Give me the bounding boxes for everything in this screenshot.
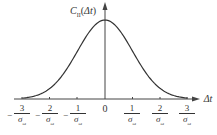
tick-label-0: 0 [100,104,110,114]
tick-label-neg3: 3σω [14,103,30,129]
minus-sign: − [7,110,12,120]
minus-sign: − [35,110,40,120]
tick-label-neg1: 1σω [70,103,86,129]
tick-label-pos3: 3σω [179,103,195,129]
tick-label-neg2: 2σω [42,103,58,129]
tick-label-pos1: 1σω [124,103,140,129]
y-axis-arrow-icon [103,2,108,10]
tick-label-pos2: 2σω [152,103,168,129]
y-axis-label: CII(Δt) [65,6,101,20]
minus-sign: − [63,110,68,120]
gaussian-chart: CII(Δt) Δt 0 − 3σω − 2σω − 1σω 1σω 2σω 3… [0,0,217,135]
x-axis-label: Δt [199,94,217,104]
